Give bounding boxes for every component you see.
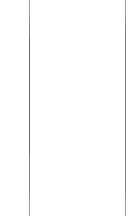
screen-canvas — [0, 0, 132, 216]
empty-state-text — [30, 0, 125, 216]
empty-content-column — [30, 0, 125, 216]
left-gutter — [0, 0, 29, 216]
right-gutter — [126, 0, 132, 216]
